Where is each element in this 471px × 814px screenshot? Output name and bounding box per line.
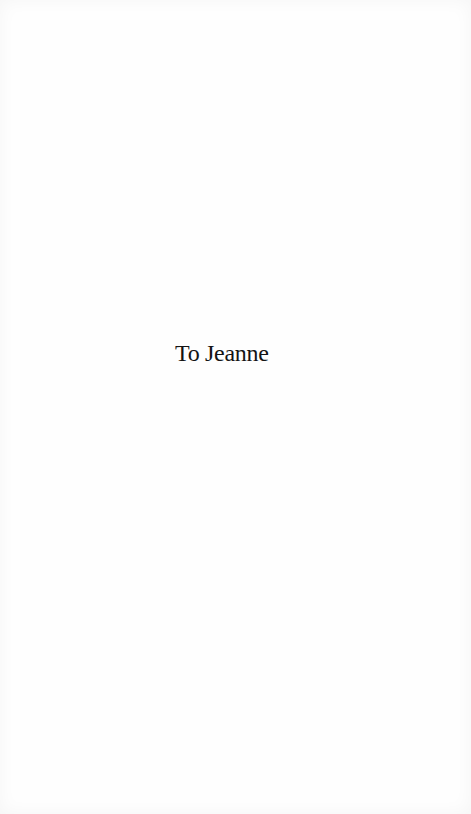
dedication-text: To Jeanne bbox=[175, 337, 269, 369]
book-page: To Jeanne bbox=[0, 0, 471, 814]
